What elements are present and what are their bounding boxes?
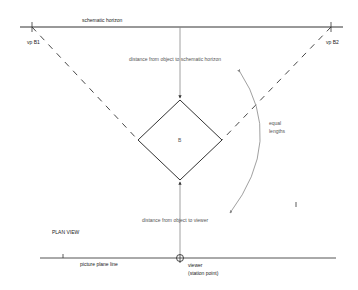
equal-lengths-label-line1: equal (269, 120, 281, 126)
equal-lengths-label-line2: lengths (269, 128, 285, 134)
plan-view-label: PLAN VIEW (52, 229, 79, 235)
vp-b1-label: vp B1 (27, 39, 40, 45)
viewer-label-line2: (station point) (188, 270, 218, 276)
vp-b2-label: vp B2 (326, 39, 339, 45)
plan-view-diagram (0, 0, 358, 290)
object-b-label: B (178, 137, 181, 143)
distance-to-horizon-label: distance from object to schematic horizo… (129, 56, 221, 62)
equal-lengths-arc (230, 72, 260, 213)
distance-to-viewer-label: distance from object to viewer (142, 217, 208, 223)
dashed-line-vp-b1 (32, 27, 138, 140)
viewer-label-line1: viewer (188, 262, 202, 268)
picture-plane-label: picture plane line (80, 261, 118, 267)
schematic-horizon-label: schematic horizon (82, 17, 122, 23)
